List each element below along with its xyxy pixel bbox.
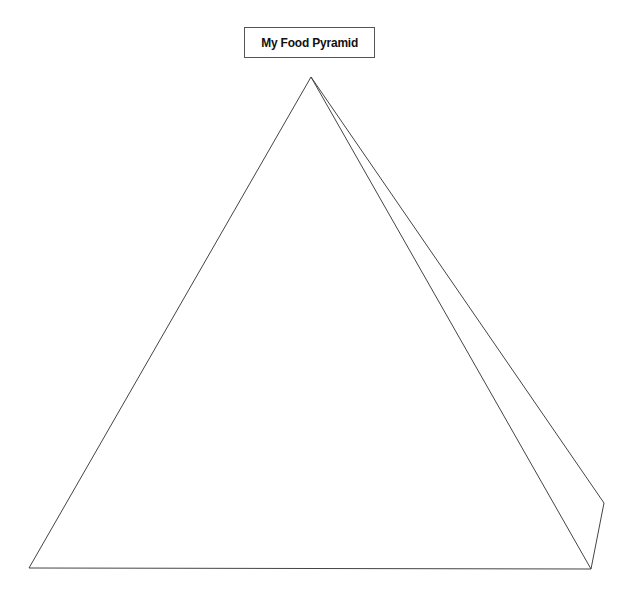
pyramid-drawing [0, 0, 634, 608]
pyramid-front-face [29, 77, 591, 569]
pyramid-side-face [311, 77, 604, 569]
